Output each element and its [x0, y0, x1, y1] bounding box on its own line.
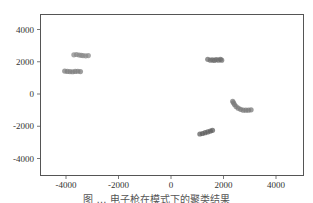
data-point	[210, 128, 215, 133]
data-point	[248, 107, 253, 112]
x-axis: -4000-2000020004000	[56, 176, 286, 191]
x-tick-label: 0	[169, 180, 174, 190]
cluster-2	[62, 69, 83, 75]
x-tick-label: 2000	[215, 180, 234, 190]
y-axis: 400020000-2000-4000	[13, 25, 41, 164]
y-tick-label: -4000	[13, 154, 34, 164]
x-tick-label: 4000	[267, 180, 286, 190]
data-point	[86, 53, 91, 58]
y-tick-label: 2000	[16, 57, 35, 67]
x-tick-label: -2000	[108, 180, 129, 190]
data-point	[219, 58, 224, 63]
data-point	[78, 69, 83, 74]
y-tick-label: -2000	[13, 121, 34, 131]
x-tick-label: -4000	[56, 180, 77, 190]
y-tick-label: 4000	[16, 25, 35, 35]
y-tick-label: 0	[30, 89, 35, 99]
figure-caption: 图 … 电子枪在模式下的聚类结果	[0, 193, 313, 203]
plot-frame	[41, 15, 304, 176]
scatter-chart: 400020000-2000-4000 -4000-2000020004000	[0, 0, 313, 203]
